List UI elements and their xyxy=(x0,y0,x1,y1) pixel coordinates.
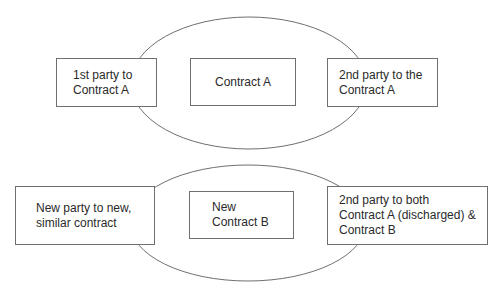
first-party-contract-a-box: 1st party to Contract A xyxy=(56,58,157,107)
second-party-both-box: 2nd party to both Contract A (discharged… xyxy=(327,186,488,245)
new-contract-b-box: New Contract B xyxy=(189,191,294,239)
box-text-line: New party to new, xyxy=(36,201,131,216)
new-party-box: New party to new, similar contract xyxy=(15,186,155,245)
box-text-line: 2nd party to the xyxy=(339,68,422,83)
box-text-line: Contract A (discharged) & xyxy=(339,208,476,223)
box-text-line: Contract B xyxy=(339,223,476,238)
box-text-line: New xyxy=(212,200,269,215)
box-text-line: 1st party to xyxy=(73,68,132,83)
second-party-contract-a-box: 2nd party to the Contract A xyxy=(327,58,438,107)
box-text: Contract A xyxy=(215,75,271,90)
box-text-line: Contract A xyxy=(73,83,132,98)
contract-a-box: Contract A xyxy=(190,58,296,106)
box-text-line: similar contract xyxy=(36,216,131,231)
box-text-line: Contract B xyxy=(212,215,269,230)
box-text-line: Contract A xyxy=(339,83,422,98)
box-text-line: 2nd party to both xyxy=(339,193,476,208)
ellipse-layer xyxy=(0,0,501,292)
